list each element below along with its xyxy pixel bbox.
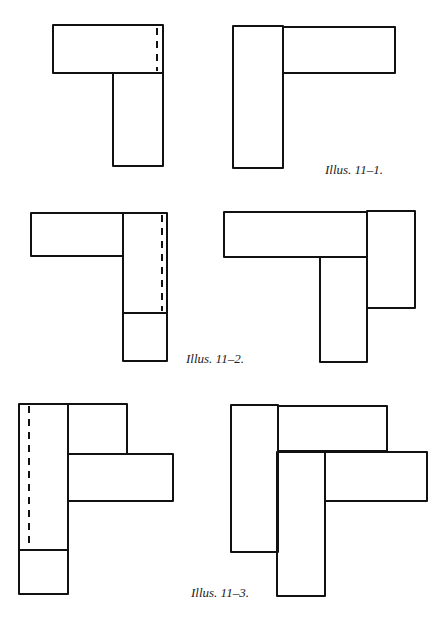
block-rectangle <box>53 25 163 73</box>
figure-11-3 <box>19 404 427 596</box>
block-rectangle <box>224 212 367 257</box>
figure-11-2-left-panel <box>31 213 167 361</box>
figure-11-1-left-panel <box>53 25 163 166</box>
block-rectangle <box>367 211 415 308</box>
block-rectangle <box>19 404 68 550</box>
caption-illus-11-2: Illus. 11–2. <box>186 351 244 367</box>
illustration-page: Illus. 11–1. Illus. 11–2. Illus. 11–3. <box>0 0 440 624</box>
block-rectangle <box>113 73 163 166</box>
block-rectangle <box>325 452 427 501</box>
block-rectangle <box>233 26 283 168</box>
block-rectangle <box>320 257 367 362</box>
block-rectangle <box>68 454 173 501</box>
block-rectangle <box>19 550 68 594</box>
block-rectangle <box>231 405 278 552</box>
figure-11-3-right-panel <box>231 405 427 596</box>
figure-11-2 <box>31 211 415 362</box>
block-rectangle <box>123 213 167 313</box>
figure-11-1 <box>53 25 395 168</box>
figure-11-2-right-panel <box>224 211 415 362</box>
block-rectangle <box>278 406 387 451</box>
block-rectangle <box>283 27 395 73</box>
block-rectangle <box>68 404 127 454</box>
block-rectangle <box>123 313 167 361</box>
block-rectangle <box>31 213 123 256</box>
block-rectangle <box>277 452 325 596</box>
caption-illus-11-1: Illus. 11–1. <box>325 162 383 178</box>
caption-illus-11-3: Illus. 11–3. <box>191 585 249 601</box>
block-arrangement-diagrams <box>0 0 440 624</box>
figure-11-3-left-panel <box>19 404 173 594</box>
figure-11-1-right-panel <box>233 26 395 168</box>
